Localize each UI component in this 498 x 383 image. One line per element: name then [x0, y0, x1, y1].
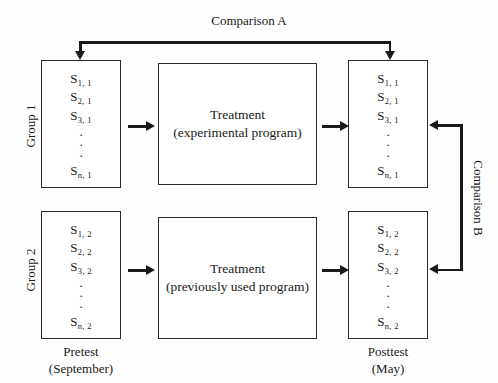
comparison-b-vertical-line	[460, 124, 463, 271]
subject-ellipsis: ...	[79, 127, 82, 159]
treatment-title: Treatment	[210, 106, 265, 124]
group-1-posttest-box: S1, 1 S2, 1 S3, 1 ... Sn, 1	[348, 60, 428, 188]
subject-ellipsis: ...	[386, 278, 389, 310]
subject-item: S2, 2	[377, 241, 398, 254]
comparison-a-label: Comparison A	[191, 13, 307, 29]
subject-item: S3, 1	[70, 109, 91, 122]
subject-item: S3, 2	[70, 260, 91, 273]
treatment-detail: (previously used program)	[166, 278, 309, 296]
posttest-stage-time: (May)	[348, 361, 428, 378]
posttest-stage-name: Posttest	[348, 344, 428, 361]
group-2-pretest-to-treatment-line	[128, 269, 148, 272]
group-1-pretest-box: S1, 1 S2, 1 S3, 1 ... Sn, 1	[41, 60, 121, 188]
subject-item: S1, 1	[70, 72, 91, 85]
comparison-a-horizontal-line	[80, 41, 391, 44]
comparison-a-left-arrowhead	[75, 51, 85, 60]
subject-item: S2, 1	[70, 90, 91, 103]
comparison-b-upper-arrowhead	[429, 120, 438, 130]
group-2-posttest-box: S1, 2 S2, 2 S3, 2 ... Sn, 2	[348, 211, 428, 339]
subject-item: S2, 2	[70, 241, 91, 254]
group-2-label: Group 2	[23, 237, 39, 303]
treatment-detail: (experimental program)	[173, 124, 302, 142]
pretest-stage-time: (September)	[41, 361, 121, 378]
comparison-a-right-arrowhead	[385, 51, 395, 60]
group-2-pretest-to-treatment-arrowhead	[146, 265, 155, 275]
comparison-b-upper-branch	[437, 124, 462, 127]
subject-item: Sn, 1	[377, 164, 398, 177]
subject-item: Sn, 2	[70, 315, 91, 328]
treatment-title: Treatment	[210, 260, 265, 278]
group-1-pretest-to-treatment-arrowhead	[146, 121, 155, 131]
subject-item: Sn, 1	[70, 164, 91, 177]
pretest-stage-name: Pretest	[41, 344, 121, 361]
subject-item: S1, 1	[377, 72, 398, 85]
comparison-b-lower-arrowhead	[429, 264, 438, 274]
subject-item: S2, 1	[377, 90, 398, 103]
subject-item: S1, 2	[70, 223, 91, 236]
comparison-b-lower-branch	[437, 269, 462, 272]
subject-item: S3, 2	[377, 260, 398, 273]
subject-ellipsis: ...	[79, 278, 82, 310]
experimental-design-diagram: Comparison A Group 1 S1, 1 S2, 1 S3, 1 .…	[0, 0, 498, 383]
subject-ellipsis: ...	[386, 127, 389, 159]
subject-item: S1, 2	[377, 223, 398, 236]
group-2-pretest-box: S1, 2 S2, 2 S3, 2 ... Sn, 2	[41, 211, 121, 339]
treatment-previously-used-box: Treatment (previously used program)	[158, 217, 317, 339]
subject-item: Sn, 2	[377, 315, 398, 328]
group-1-treatment-to-posttest-line	[322, 125, 342, 128]
subject-item: S3, 1	[377, 109, 398, 122]
treatment-experimental-box: Treatment (experimental program)	[158, 63, 317, 185]
group-1-pretest-to-treatment-line	[128, 125, 148, 128]
group-2-treatment-to-posttest-line	[322, 269, 342, 272]
pretest-stage-label: Pretest (September)	[41, 344, 121, 378]
posttest-stage-label: Posttest (May)	[348, 344, 428, 378]
comparison-b-label: Comparison B	[470, 140, 486, 256]
group-1-label: Group 1	[23, 93, 39, 159]
